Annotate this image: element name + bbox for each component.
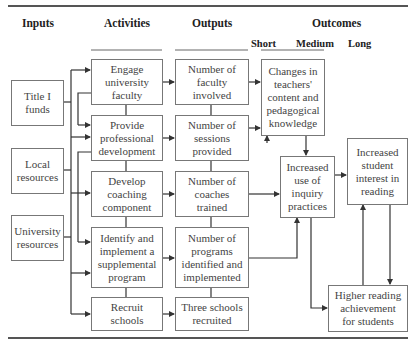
- outcome-reading-achievement: Higher reading achievement for students: [328, 285, 408, 332]
- outcome-teacher-knowledge: Changes in teachers' content and pedagog…: [261, 59, 325, 136]
- input-title-i-funds: Title I funds: [11, 80, 64, 126]
- outcome-inquiry-practices: Increased use of inquiry practices: [280, 156, 335, 218]
- activity-engage-faculty: Engage university faculty: [91, 59, 163, 105]
- activity-supplemental-program: Identify and implement a supplemental pr…: [91, 227, 163, 288]
- activity-recruit-schools: Recruit schools: [91, 297, 163, 331]
- input-local-resources: Local resources: [11, 148, 64, 194]
- output-coaches-trained: Number of coaches trained: [175, 171, 249, 217]
- activity-professional-development: Provide professional development: [91, 115, 163, 161]
- outcome-student-interest: Increased student interest in reading: [347, 138, 408, 205]
- activity-coaching-component: Develop coaching component: [91, 171, 163, 217]
- output-faculty-involved: Number of faculty involved: [175, 59, 249, 105]
- output-programs-implemented: Number of programs identified and implem…: [175, 227, 249, 288]
- output-schools-recruited: Three schools recruited: [175, 297, 249, 331]
- output-sessions-provided: Number of sessions provided: [175, 115, 249, 161]
- input-university-resources: University resources: [11, 215, 64, 261]
